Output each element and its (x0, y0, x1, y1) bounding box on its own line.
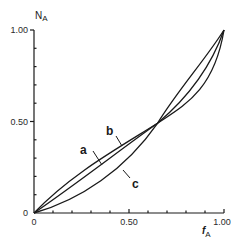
x-tick-label-0: 0 (31, 217, 36, 227)
y-tick-label-1: 1.00 (10, 25, 28, 35)
curve-b-leader (116, 136, 122, 146)
curve-a-label: a (80, 143, 87, 157)
chart: 1.00 0.50 0 0 0.50 1.00 NA fA a b c (0, 0, 239, 246)
x-axis (34, 209, 224, 213)
curve-c-label: c (132, 177, 139, 191)
curve-c-leader (123, 170, 130, 178)
y-axis (30, 30, 37, 213)
curve-b-label: b (106, 124, 113, 138)
curve-c (34, 30, 224, 213)
y-tick-label-050: 0.50 (10, 117, 28, 127)
y-axis-title: NA (35, 10, 48, 23)
curve-b (34, 30, 224, 213)
curve-a (34, 30, 224, 213)
x-tick-label-050: 0.50 (120, 217, 138, 227)
x-axis-title: fA (202, 225, 211, 239)
x-tick-label-1: 1.00 (213, 217, 231, 227)
y-tick-label-0: 0 (23, 208, 28, 218)
